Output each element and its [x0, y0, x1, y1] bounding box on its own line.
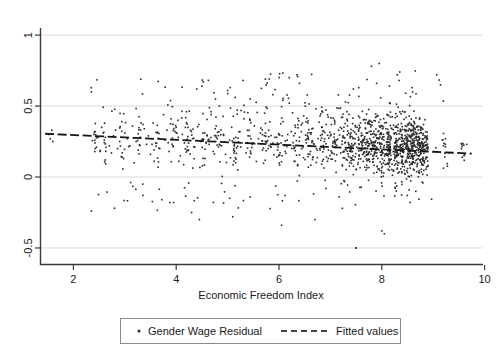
scatter-point — [247, 129, 249, 131]
scatter-point — [409, 128, 411, 130]
scatter-point — [330, 134, 332, 136]
scatter-point — [393, 160, 395, 162]
scatter-point — [358, 115, 360, 117]
scatter-point — [363, 139, 365, 141]
scatter-point — [397, 154, 399, 156]
scatter-point — [393, 133, 395, 135]
scatter-point — [365, 119, 367, 121]
scatter-point — [419, 133, 421, 135]
scatter-point — [128, 146, 130, 148]
scatter-point — [230, 107, 232, 109]
scatter-point — [166, 129, 168, 131]
scatter-point — [397, 172, 399, 174]
scatter-point — [94, 148, 96, 150]
scatter-point — [350, 160, 352, 162]
scatter-point — [313, 143, 315, 145]
scatter-point — [418, 176, 420, 178]
scatter-point — [376, 152, 378, 154]
scatter-point — [387, 155, 389, 157]
scatter-point — [341, 183, 343, 185]
scatter-point — [235, 157, 237, 159]
scatter-point — [349, 162, 351, 164]
scatter-point — [305, 142, 307, 144]
scatter-point — [354, 156, 356, 158]
scatter-point — [362, 135, 364, 137]
scatter-point — [403, 163, 405, 165]
scatter-point — [331, 153, 333, 155]
scatter-point — [227, 93, 229, 95]
scatter-point — [196, 88, 198, 90]
scatter-point — [466, 144, 468, 146]
scatter-point — [202, 165, 204, 167]
scatter-point — [123, 158, 125, 160]
scatter-point — [231, 140, 233, 142]
scatter-point — [376, 134, 378, 136]
scatter-point — [412, 91, 414, 93]
scatter-point — [220, 129, 222, 131]
scatter-point — [328, 158, 330, 160]
scatter-point — [396, 190, 398, 192]
scatter-point — [366, 154, 368, 156]
y-tick-label-1: 0.5 — [22, 98, 34, 113]
scatter-point — [366, 139, 368, 141]
scatter-point — [324, 180, 326, 182]
scatter-point — [185, 151, 187, 153]
scatter-point — [308, 103, 310, 105]
scatter-point — [381, 172, 383, 174]
scatter-point — [121, 131, 123, 133]
scatter-point — [327, 116, 329, 118]
x-axis-title: Economic Freedom Index — [198, 289, 324, 301]
scatter-point — [248, 130, 250, 132]
scatter-point — [375, 128, 377, 130]
scatter-point — [390, 155, 392, 157]
scatter-point — [402, 166, 404, 168]
scatter-point — [279, 152, 281, 154]
scatter-point — [381, 182, 383, 184]
scatter-point — [309, 132, 311, 134]
scatter-point — [397, 130, 399, 132]
y-tick-label-2: 0 — [22, 174, 34, 180]
scatter-point — [407, 134, 409, 136]
scatter-point — [288, 77, 290, 79]
scatter-point — [373, 172, 375, 174]
scatter-point — [132, 125, 134, 127]
scatter-point — [186, 149, 188, 151]
scatter-point — [361, 143, 363, 145]
scatter-point — [426, 174, 428, 176]
scatter-point — [167, 104, 169, 106]
scatter-point — [348, 142, 350, 144]
scatter-point — [420, 132, 422, 134]
scatter-point — [185, 195, 187, 197]
scatter-point — [313, 193, 315, 195]
scatter-point — [373, 165, 375, 167]
scatter-point — [411, 155, 413, 157]
scatter-point — [443, 100, 445, 102]
scatter-point — [247, 147, 249, 149]
scatter-point — [378, 63, 380, 65]
scatter-point — [297, 76, 299, 78]
scatter-point — [150, 154, 152, 156]
scatter-point — [282, 121, 284, 123]
scatter-point — [421, 142, 423, 144]
scatter-point — [381, 151, 383, 153]
scatter-point — [349, 94, 351, 96]
scatter-point — [410, 96, 412, 98]
scatter-point — [366, 142, 368, 144]
scatter-point — [352, 137, 354, 139]
scatter-point — [327, 160, 329, 162]
scatter-point — [362, 154, 364, 156]
scatter-point — [247, 112, 249, 114]
scatter-point — [351, 157, 353, 159]
scatter-point — [204, 164, 206, 166]
scatter-point — [121, 152, 123, 154]
scatter-point — [243, 200, 245, 202]
scatter-point — [137, 149, 139, 151]
scatter-point — [323, 130, 325, 132]
scatter-point — [307, 156, 309, 158]
scatter-point — [261, 129, 263, 131]
scatter-point — [395, 145, 397, 147]
scatter-point — [188, 142, 190, 144]
scatter-point — [340, 107, 342, 109]
scatter-point — [334, 139, 336, 141]
scatter-point — [367, 132, 369, 134]
